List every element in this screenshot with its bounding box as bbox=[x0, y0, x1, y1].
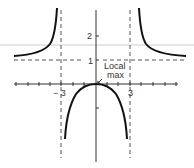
tick-label-y-2: 2 bbox=[87, 31, 92, 41]
curve-left-branch bbox=[14, 8, 57, 56]
curve-right-branch bbox=[139, 8, 186, 56]
tick-label-x-neg3: − 3 bbox=[53, 88, 66, 98]
rational-function-graph: − 3 3 2 1 Local max bbox=[0, 0, 194, 168]
annotation-max: max bbox=[107, 70, 125, 80]
tick-label-y-1: 1 bbox=[88, 56, 93, 66]
tick-label-x-pos3: 3 bbox=[128, 88, 133, 98]
